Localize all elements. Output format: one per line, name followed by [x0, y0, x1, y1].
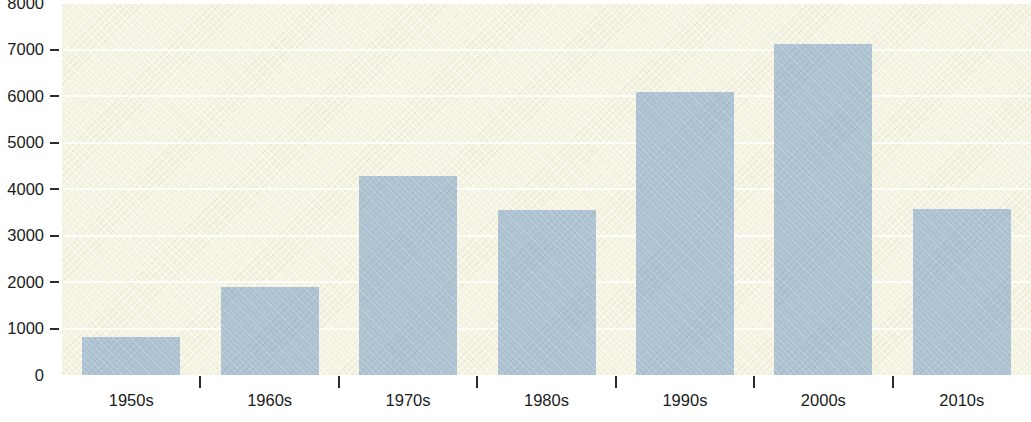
y-tick-mark [50, 49, 59, 51]
y-tick-1000: 1000 [0, 319, 62, 339]
gridline [62, 142, 1031, 144]
x-tick-label-1970s: 1970s [386, 391, 431, 410]
x-tick-mark [753, 376, 755, 388]
bar-1950s[interactable] [82, 337, 180, 375]
y-tick-label: 2000 [7, 274, 44, 291]
bar-1970s[interactable] [359, 176, 457, 375]
y-tick-label: 5000 [7, 134, 44, 151]
y-tick-6000: 6000 [0, 86, 62, 106]
bar-2000s[interactable] [774, 44, 872, 375]
y-tick-mark [50, 281, 59, 283]
gridline [62, 188, 1031, 190]
bar-1980s[interactable] [498, 210, 596, 375]
y-tick-label: 4000 [7, 181, 44, 198]
y-tick-label: 3000 [7, 227, 44, 244]
bar-1990s[interactable] [636, 92, 734, 375]
bar-2010s[interactable] [913, 209, 1011, 375]
x-tick-mark [615, 376, 617, 388]
y-tick-7000: 7000 [0, 40, 62, 60]
y-tick-mark [50, 142, 59, 144]
y-tick-mark [50, 95, 59, 97]
x-tick-mark [476, 376, 478, 388]
gridline [62, 49, 1031, 51]
plot-area [62, 3, 1031, 375]
x-tick-label-1950s: 1950s [109, 391, 154, 410]
x-tick-label-1980s: 1980s [524, 391, 569, 410]
y-tick-mark [50, 2, 59, 4]
x-tick-mark [338, 376, 340, 388]
y-tick-5000: 5000 [0, 133, 62, 153]
x-tick-label-1990s: 1990s [662, 391, 707, 410]
y-tick-8000: 8000 [0, 0, 62, 13]
y-tick-mark [50, 235, 59, 237]
y-tick-label: 1000 [7, 320, 44, 337]
x-tick-mark [199, 376, 201, 388]
y-tick-label: 8000 [7, 0, 44, 11]
gridline [62, 3, 1031, 4]
bar-chart: 800070006000500040003000200010000 1950s1… [0, 0, 1031, 422]
y-tick-label: 7000 [7, 41, 44, 58]
y-tick-3000: 3000 [0, 226, 62, 246]
x-tick-label-1960s: 1960s [247, 391, 292, 410]
x-tick-mark [892, 376, 894, 388]
bar-1960s[interactable] [221, 287, 319, 375]
y-tick-mark [50, 188, 59, 190]
y-tick-2000: 2000 [0, 272, 62, 292]
y-tick-4000: 4000 [0, 179, 62, 199]
y-tick-label: 6000 [7, 88, 44, 105]
caption-strip [0, 414, 1031, 422]
y-tick-mark [50, 328, 59, 330]
x-tick-label-2010s: 2010s [939, 391, 984, 410]
y-axis: 800070006000500040003000200010000 [0, 0, 62, 422]
x-tick-label-2000s: 2000s [801, 391, 846, 410]
gridline [62, 95, 1031, 97]
